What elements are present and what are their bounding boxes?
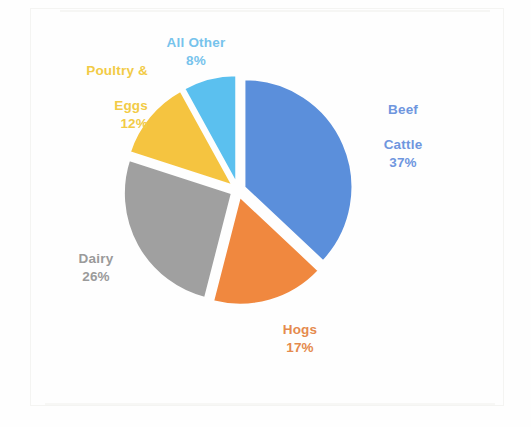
slice-value-beef-cattle: 37%	[360, 154, 446, 172]
slice-label-hogs: Hogs 17%	[260, 303, 340, 374]
slice-label-beef-cattle: Beef Cattle 37%	[360, 83, 446, 190]
pie-slice-group	[124, 75, 353, 305]
slice-label-beef-cattle-line2: Cattle	[384, 137, 423, 152]
pie-chart-figure: Beef Cattle 37% Hogs 17% Dairy 26% Poult…	[0, 0, 531, 427]
slice-label-poultry-eggs: Poultry & Eggs 12%	[48, 44, 148, 151]
slice-label-all-other: All Other 8%	[148, 16, 244, 87]
slice-label-poultry-eggs-line2: Eggs	[114, 98, 148, 113]
slice-label-all-other-line1: All Other	[167, 35, 226, 50]
slice-value-poultry-eggs: 12%	[48, 115, 148, 133]
slice-value-hogs: 17%	[260, 339, 340, 357]
slice-value-dairy: 26%	[55, 268, 137, 286]
slice-value-all-other: 8%	[148, 52, 244, 70]
slice-label-dairy: Dairy 26%	[55, 232, 137, 303]
slice-label-beef-cattle-line1: Beef	[388, 102, 418, 117]
slice-label-dairy-line1: Dairy	[79, 251, 114, 266]
slice-label-poultry-eggs-line1: Poultry &	[86, 63, 148, 78]
slice-label-hogs-line1: Hogs	[283, 322, 318, 337]
